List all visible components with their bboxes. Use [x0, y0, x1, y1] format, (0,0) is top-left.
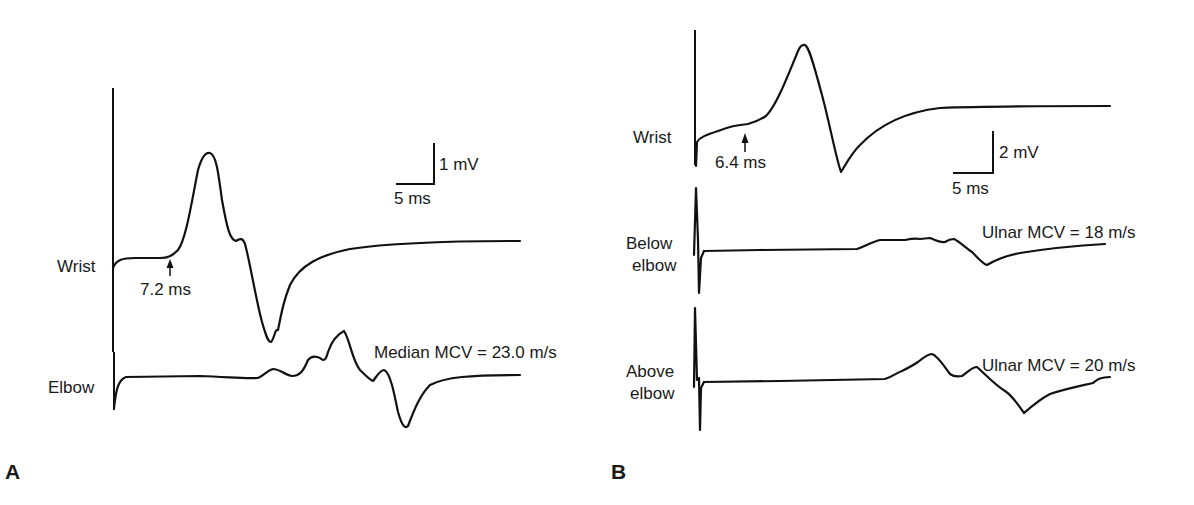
onset-arrow-icon: [742, 133, 749, 152]
scale-bar-lines: [953, 131, 993, 173]
onset-latency-label: 7.2 ms: [140, 280, 191, 299]
panel-b-scale-bar: 2 mV 5 ms: [952, 131, 1039, 198]
panel-letter-a: A: [5, 460, 20, 483]
below-elbow-waveform: [704, 238, 1105, 265]
scale-bar-voltage-label: 2 mV: [999, 143, 1039, 162]
panel-a-wrist-trace-group: Wrist 7.2 ms: [57, 153, 520, 342]
panel-b: 2 mV 5 ms Wrist 6.4 ms Below elbow Ulnar…: [611, 30, 1136, 483]
onset-latency-label: 6.4 ms: [715, 153, 766, 172]
panel-b-below-elbow-trace-group: Below elbow Ulnar MCV = 18 m/s: [626, 188, 1136, 293]
scale-bar-voltage-label: 1 mV: [439, 155, 479, 174]
ulnar-mcv-above-label: Ulnar MCV = 20 m/s: [982, 356, 1136, 375]
ulnar-mcv-below-label: Ulnar MCV = 18 m/s: [982, 223, 1136, 242]
wrist-waveform: [113, 153, 520, 342]
trace-label-wrist: Wrist: [633, 128, 672, 147]
trace-label-above-elbow-line1: Above: [626, 362, 674, 381]
onset-arrow-icon: [167, 259, 174, 276]
panel-b-above-elbow-trace-group: Above elbow Ulnar MCV = 20 m/s: [626, 308, 1136, 430]
scale-bar-time-label: 5 ms: [394, 189, 431, 208]
above-elbow-stimulus-artifact: [694, 308, 704, 430]
trace-label-elbow: Elbow: [48, 378, 95, 397]
ncs-figure: 1 mV 5 ms Wrist 7.2 ms Elbow Median MCV …: [0, 0, 1194, 505]
trace-label-above-elbow-line2: elbow: [630, 384, 675, 403]
below-elbow-stimulus-artifact: [694, 188, 704, 293]
trace-label-below-elbow-line2: elbow: [632, 256, 677, 275]
median-mcv-label: Median MCV = 23.0 m/s: [374, 343, 557, 362]
trace-label-below-elbow-line1: Below: [626, 234, 673, 253]
trace-label-wrist: Wrist: [57, 257, 96, 276]
scale-bar-lines: [396, 143, 434, 184]
panel-a-elbow-trace-group: Elbow Median MCV = 23.0 m/s: [48, 331, 557, 427]
scale-bar-time-label: 5 ms: [952, 179, 989, 198]
panel-a-scale-bar: 1 mV 5 ms: [394, 143, 479, 208]
panel-letter-b: B: [611, 460, 626, 483]
panel-a: 1 mV 5 ms Wrist 7.2 ms Elbow Median MCV …: [5, 88, 557, 483]
